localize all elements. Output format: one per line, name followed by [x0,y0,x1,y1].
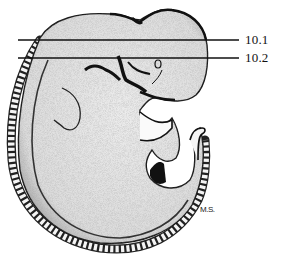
section-label-10-2: 10.2 [245,50,269,66]
embryo-illustration [0,0,281,259]
artist-signature: M.S. [200,205,214,214]
section-label-10-1: 10.1 [245,32,269,48]
